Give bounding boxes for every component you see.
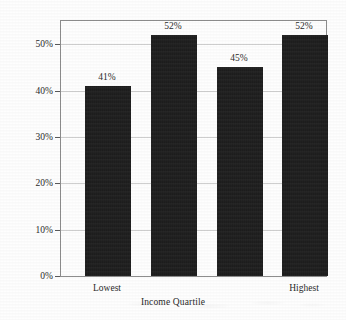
- bar-value-label: 52%: [164, 21, 181, 31]
- y-tick-label: 50%: [13, 39, 53, 49]
- y-tick-label: 10%: [13, 225, 53, 235]
- y-tick-label: 20%: [13, 178, 53, 188]
- y-tick-label: 30%: [13, 132, 53, 142]
- bar-third[interactable]: [217, 67, 263, 276]
- y-tick-label: 40%: [13, 86, 53, 96]
- bar-lowest[interactable]: [85, 86, 131, 276]
- x-tick-label-highest: Highest: [289, 283, 319, 293]
- bar-value-label: 41%: [98, 72, 115, 82]
- x-axis-title: Income Quartile: [0, 297, 346, 307]
- bar-highest[interactable]: [282, 35, 328, 276]
- y-tick-label: 0%: [13, 271, 53, 281]
- bar-value-label: 52%: [295, 21, 312, 31]
- x-tick-label-lowest: Lowest: [93, 283, 121, 293]
- plot-area: [60, 20, 327, 277]
- bar-second[interactable]: [151, 35, 197, 276]
- bar-value-label: 45%: [230, 53, 247, 63]
- bar-chart-figure: Agreeing with Employer Messages 50% 40% …: [0, 0, 346, 320]
